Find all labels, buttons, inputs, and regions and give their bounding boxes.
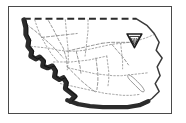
map-caption [0,0,1,1]
map-canvas [9,7,171,113]
map-frame-border [8,6,172,114]
map-description: Black and white line-art outline map of … [0,0,1,1]
map-figure: Regional locator map Black and white lin… [0,0,186,123]
map-title: Regional locator map [0,0,1,1]
